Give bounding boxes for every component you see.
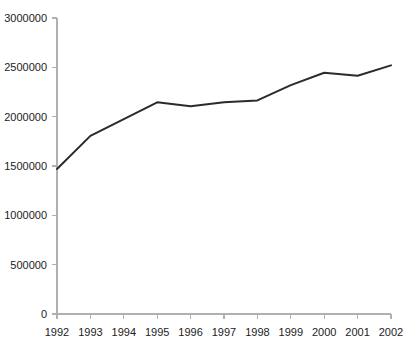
x-tick-label: 2002	[379, 326, 403, 338]
x-tick-label: 1992	[45, 326, 69, 338]
y-tick-group: 0500000100000015000002000000250000030000…	[4, 12, 57, 320]
x-tick-group: 1992199319941995199619971998199920002001…	[45, 314, 403, 338]
x-tick-label: 1997	[212, 326, 236, 338]
line-chart: 0500000100000015000002000000250000030000…	[0, 0, 404, 347]
y-tick-label: 500000	[10, 259, 47, 271]
data-series-line	[57, 65, 391, 169]
y-tick-label: 1000000	[4, 209, 47, 221]
x-tick-label: 1994	[112, 326, 136, 338]
y-tick-label: 1500000	[4, 160, 47, 172]
y-tick-label: 3000000	[4, 12, 47, 24]
y-tick-label: 2500000	[4, 61, 47, 73]
x-tick-label: 1993	[78, 326, 102, 338]
y-tick-label: 2000000	[4, 111, 47, 123]
chart-canvas: 0500000100000015000002000000250000030000…	[0, 0, 404, 347]
x-tick-label: 1999	[279, 326, 303, 338]
x-tick-label: 2000	[312, 326, 336, 338]
y-tick-label: 0	[41, 308, 47, 320]
x-tick-label: 1998	[245, 326, 269, 338]
x-tick-label: 2001	[345, 326, 369, 338]
x-tick-label: 1995	[145, 326, 169, 338]
x-tick-label: 1996	[178, 326, 202, 338]
